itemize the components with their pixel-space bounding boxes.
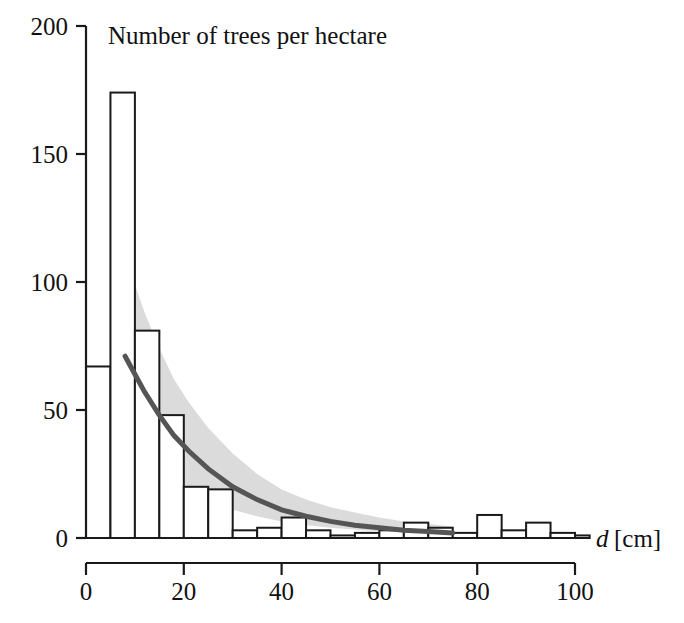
x-axis-label-symbol: d	[596, 525, 609, 552]
histogram-bar	[86, 366, 110, 538]
histogram-bar	[306, 530, 330, 538]
histogram-bar	[110, 93, 134, 538]
x-axis-tick-label: 0	[80, 578, 93, 605]
y-axis-tick-label: 200	[31, 13, 69, 40]
histogram-bar	[502, 530, 526, 538]
y-axis-tick-label: 100	[31, 269, 69, 296]
x-axis-tick-label: 100	[556, 578, 594, 605]
histogram-bar	[282, 518, 306, 538]
y-axis-tick-label: 50	[43, 397, 68, 424]
histogram-bar	[257, 528, 281, 538]
chart-figure: 050100150200 020406080100 Number of tree…	[0, 0, 684, 623]
histogram-bar	[526, 523, 550, 538]
histogram-bars	[86, 93, 590, 538]
x-axis-label-unit: [cm]	[614, 525, 661, 552]
chart-title: Number of trees per hectare	[108, 22, 387, 49]
y-axis	[76, 26, 86, 538]
histogram-bar	[135, 331, 159, 538]
x-axis-tick-label: 20	[171, 578, 196, 605]
x-axis-tick-label: 60	[367, 578, 392, 605]
histogram-chart: 050100150200 020406080100 Number of tree…	[0, 0, 684, 623]
histogram-bar	[477, 515, 501, 538]
x-axis-tick-label: 40	[269, 578, 294, 605]
histogram-bar	[184, 487, 208, 538]
x-axis-tick-labels: 020406080100	[80, 578, 594, 605]
histogram-bar	[233, 530, 257, 538]
y-axis-tick-labels: 050100150200	[31, 13, 69, 552]
x-axis-tick-label: 80	[465, 578, 490, 605]
x-axis-ticks	[86, 563, 575, 575]
histogram-bar	[208, 489, 232, 538]
y-axis-ticks	[76, 26, 86, 538]
x-axis	[86, 563, 575, 575]
y-axis-tick-label: 0	[56, 525, 69, 552]
y-axis-tick-label: 150	[31, 141, 69, 168]
